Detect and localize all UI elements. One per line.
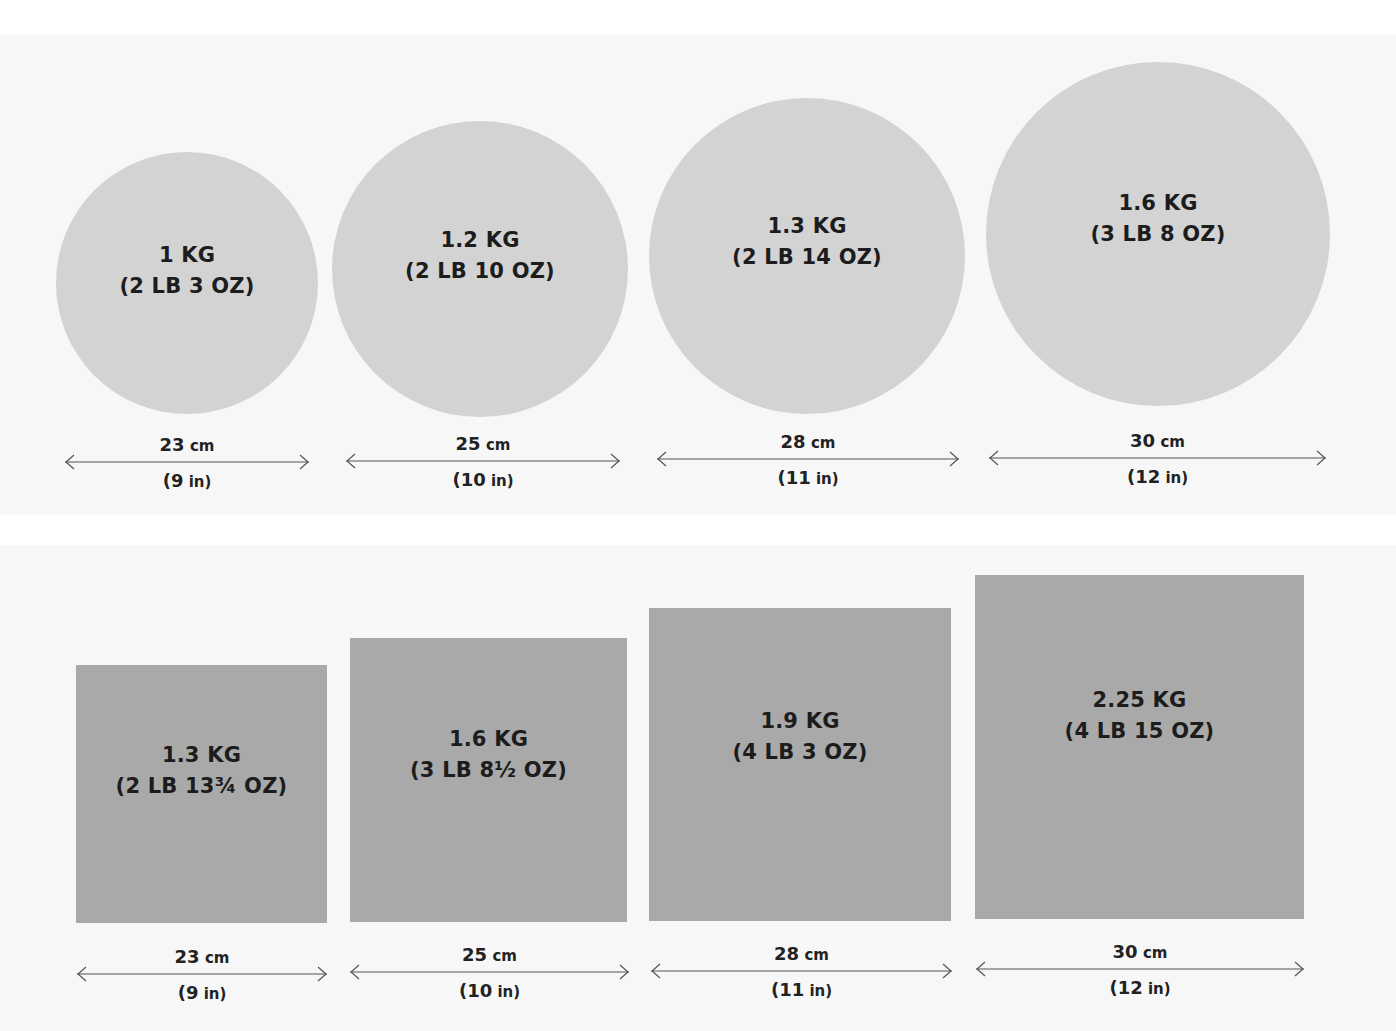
weight-imperial: (2 LB 3 OZ) xyxy=(119,271,254,302)
weight-imperial: (4 LB 15 OZ) xyxy=(1065,716,1215,747)
weight-metric: 1 KG xyxy=(159,240,215,271)
dimension-cm-label: 23 cm xyxy=(77,946,327,967)
dimension-cm-label: 30 cm xyxy=(989,430,1326,451)
weight-imperial: (4 LB 3 OZ) xyxy=(732,737,867,768)
weight-imperial: (2 LB 14 OZ) xyxy=(732,242,882,273)
dimension-cm-label: 25 cm xyxy=(350,944,629,965)
dimension-cm-label: 28 cm xyxy=(657,431,959,452)
weight-imperial: (2 LB 13¾ OZ) xyxy=(116,771,288,802)
weight-metric: 1.6 KG xyxy=(449,724,528,755)
weight-metric: 2.25 KG xyxy=(1092,685,1186,716)
weight-imperial: (3 LB 8½ OZ) xyxy=(410,755,567,786)
double-arrow-icon xyxy=(651,963,952,979)
weight-metric: 1.6 KG xyxy=(1118,188,1197,219)
dimension-in-label: (10 in) xyxy=(350,980,629,1001)
square-tin-2: 1.6 KG (3 LB 8½ OZ) xyxy=(350,638,627,922)
dimension-in-label: (9 in) xyxy=(65,470,309,491)
round-tin-1: 1 KG (2 LB 3 OZ) xyxy=(56,152,318,414)
weight-metric: 1.9 KG xyxy=(760,706,839,737)
dimension-cm-label: 28 cm xyxy=(651,943,952,964)
weight-metric: 1.3 KG xyxy=(162,740,241,771)
dimension-cm-label: 23 cm xyxy=(65,434,309,455)
round-tin-4: 1.6 KG (3 LB 8 OZ) xyxy=(986,62,1330,406)
dimension-in-label: (9 in) xyxy=(77,982,327,1003)
dimension-in-label: (11 in) xyxy=(651,979,952,1000)
double-arrow-icon xyxy=(346,453,620,469)
dimension-in-label: (11 in) xyxy=(657,467,959,488)
dimension-in-label: (12 in) xyxy=(989,466,1326,487)
double-arrow-icon xyxy=(77,966,327,982)
weight-imperial: (2 LB 10 OZ) xyxy=(405,256,555,287)
square-tin-3: 1.9 KG (4 LB 3 OZ) xyxy=(649,608,951,921)
weight-metric: 1.2 KG xyxy=(440,225,519,256)
double-arrow-icon xyxy=(65,454,309,470)
round-tin-2: 1.2 KG (2 LB 10 OZ) xyxy=(332,121,628,417)
double-arrow-icon xyxy=(976,961,1304,977)
dimension-cm-label: 25 cm xyxy=(346,433,620,454)
double-arrow-icon xyxy=(657,451,959,467)
dimension-in-label: (12 in) xyxy=(976,977,1304,998)
dimension-cm-label: 30 cm xyxy=(976,941,1304,962)
double-arrow-icon xyxy=(989,450,1326,466)
square-tin-4: 2.25 KG (4 LB 15 OZ) xyxy=(975,575,1304,919)
round-tin-3: 1.3 KG (2 LB 14 OZ) xyxy=(649,98,965,414)
dimension-in-label: (10 in) xyxy=(346,469,620,490)
square-tin-1: 1.3 KG (2 LB 13¾ OZ) xyxy=(76,665,327,923)
weight-imperial: (3 LB 8 OZ) xyxy=(1090,219,1225,250)
double-arrow-icon xyxy=(350,964,629,980)
weight-metric: 1.3 KG xyxy=(767,211,846,242)
